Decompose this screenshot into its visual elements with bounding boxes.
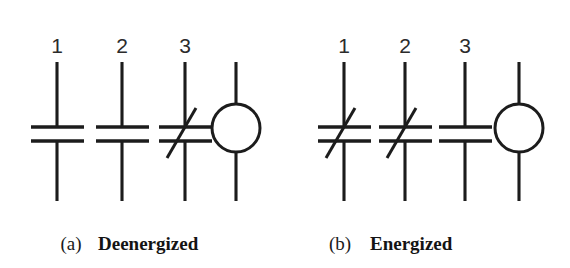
contact-b2-slash-icon	[387, 108, 416, 158]
panel-deenergized: 1 2 3	[31, 34, 260, 255]
caption-letter-b: (b)	[329, 233, 351, 255]
terminal-label-b1: 1	[338, 34, 350, 57]
coil-a-circle-icon	[212, 104, 260, 152]
contact-symbol-a3	[159, 62, 212, 201]
contact-symbol-b3	[439, 62, 492, 201]
coil-symbol-b	[495, 62, 543, 201]
contact-symbol-a2	[96, 62, 149, 201]
relay-symbol-diagram: 1 2 3	[0, 0, 570, 268]
contact-symbol-a1	[31, 62, 84, 201]
contact-a3-slash-icon	[167, 108, 196, 158]
contact-b1-slash-icon	[326, 108, 355, 158]
terminal-label-a2: 2	[116, 34, 128, 57]
coil-b-circle-icon	[495, 104, 543, 152]
terminal-label-b2: 2	[399, 34, 411, 57]
terminal-label-b3: 3	[459, 34, 471, 57]
contact-symbol-b2	[379, 62, 432, 201]
contact-symbol-b1	[318, 62, 371, 201]
panel-energized: 1 2 3	[318, 34, 543, 255]
terminal-label-a3: 3	[179, 34, 191, 57]
terminal-label-a1: 1	[51, 34, 63, 57]
caption-word-a: Deenergized	[98, 233, 199, 254]
figure-container: 1 2 3	[0, 0, 570, 268]
caption-word-b: Energized	[370, 233, 453, 254]
caption-letter-a: (a)	[60, 233, 81, 255]
coil-symbol-a	[212, 62, 260, 201]
